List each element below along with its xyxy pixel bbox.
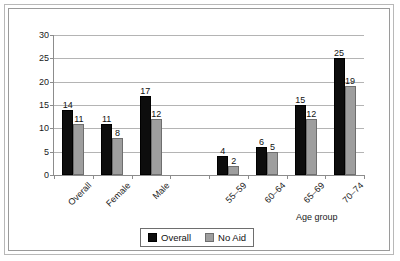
x-axis-category-label: Female <box>105 181 133 209</box>
y-axis-tick-mark <box>50 152 54 153</box>
y-axis-tick-label: 10 <box>39 124 49 133</box>
chart-legend: Overall No Aid <box>140 228 254 247</box>
bar-overall: 11 <box>101 124 112 175</box>
bar-value-label: 6 <box>259 138 264 147</box>
bar-value-label: 17 <box>140 87 150 96</box>
y-axis-tick-label: 20 <box>39 77 49 86</box>
y-axis-tick-label: 15 <box>39 101 49 110</box>
legend-entry-overall: Overall <box>148 233 191 243</box>
x-axis-tick-mark <box>248 175 249 179</box>
y-axis-tick-mark <box>50 35 54 36</box>
bar-value-label: 12 <box>151 110 161 119</box>
bar-value-label: 4 <box>220 147 225 156</box>
bar-no-aid: 8 <box>112 138 123 175</box>
bar-value-label: 19 <box>345 77 355 86</box>
bar-no-aid: 11 <box>73 124 84 175</box>
bar-value-label: 11 <box>102 115 111 124</box>
x-axis-tick-mark <box>364 175 365 179</box>
x-axis-category-label: 70–74 <box>341 181 365 205</box>
x-axis-tick-mark <box>209 175 210 179</box>
plot-area: 051015202530Overall1411Female118Male1712… <box>53 35 364 176</box>
bar-overall: 6 <box>256 147 267 175</box>
bar-overall: 25 <box>334 58 345 175</box>
bar-value-label: 14 <box>63 101 73 110</box>
legend-label-no-aid: No Aid <box>218 233 246 243</box>
bar-no-aid: 5 <box>267 152 278 175</box>
bar-value-label: 11 <box>74 115 83 124</box>
x-axis-tick-mark <box>325 175 326 179</box>
bar-overall: 17 <box>140 96 151 175</box>
legend-entry-no-aid: No Aid <box>205 233 246 243</box>
gray-square-swatch <box>205 233 214 242</box>
bar-value-label: 8 <box>115 129 120 138</box>
bar-overall: 4 <box>217 156 228 175</box>
y-axis-tick-label: 0 <box>44 171 49 180</box>
bar-no-aid: 19 <box>345 86 356 175</box>
bar-no-aid: 12 <box>151 119 162 175</box>
y-axis-tick-label: 30 <box>39 31 49 40</box>
bar-no-aid: 12 <box>306 119 317 175</box>
gridline <box>54 58 364 59</box>
chart-outer-frame: 051015202530Overall1411Female118Male1712… <box>4 4 394 255</box>
gridline <box>54 82 364 83</box>
x-axis-category-label: 55–59 <box>225 181 249 205</box>
gridline <box>54 105 364 106</box>
bar-overall: 15 <box>295 105 306 175</box>
x-axis-tick-mark <box>132 175 133 179</box>
y-axis-tick-mark <box>50 82 54 83</box>
x-axis-tick-mark <box>54 175 55 179</box>
y-axis-tick-mark <box>50 128 54 129</box>
black-square-swatch <box>148 233 157 242</box>
bar-value-label: 12 <box>306 110 316 119</box>
bar-value-label: 15 <box>295 96 305 105</box>
x-axis-category-label: Male <box>151 181 171 201</box>
bar-value-label: 5 <box>270 143 275 152</box>
gridline <box>54 35 364 36</box>
x-axis-tick-mark <box>170 175 171 179</box>
x-axis-category-label: Overall <box>67 181 94 208</box>
y-axis-tick-mark <box>50 58 54 59</box>
y-axis-tick-label: 25 <box>39 54 49 63</box>
bar-overall: 14 <box>62 110 73 175</box>
x-axis-tick-mark <box>287 175 288 179</box>
bar-no-aid: 2 <box>228 166 239 175</box>
x-axis-category-label: 65–69 <box>302 181 326 205</box>
y-axis-tick-label: 5 <box>44 147 49 156</box>
bar-value-label: 2 <box>231 157 236 166</box>
legend-label-overall: Overall <box>161 233 191 243</box>
bar-value-label: 25 <box>334 49 344 58</box>
x-axis-title: Age group <box>296 212 338 222</box>
x-axis-category-label: 60–64 <box>263 181 287 205</box>
y-axis-tick-mark <box>50 105 54 106</box>
x-axis-tick-mark <box>93 175 94 179</box>
chart-inner-frame: 051015202530Overall1411Female118Male1712… <box>8 8 390 251</box>
